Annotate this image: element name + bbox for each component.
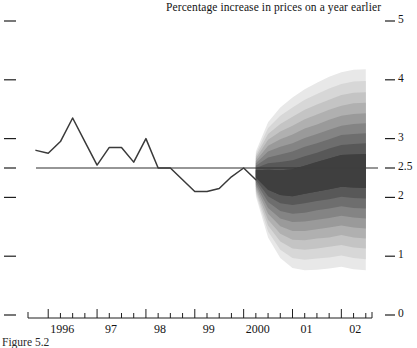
y-axis-label: 2.5 (398, 160, 412, 172)
y-axis-label: 1 (398, 248, 404, 260)
history-line (36, 118, 256, 192)
y-axis-label: 4 (398, 72, 404, 84)
x-axis-label: 98 (154, 322, 166, 337)
y-axis-label: 3 (398, 131, 404, 143)
y-axis-label: 5 (398, 13, 404, 25)
x-axis-label: 2000 (246, 322, 270, 337)
x-axis-label: 1996 (50, 322, 74, 337)
y-axis-label: 2 (398, 189, 404, 201)
x-axis-label: 02 (349, 322, 361, 337)
x-axis-label: 01 (301, 322, 313, 337)
y-axis-label: 0 (398, 307, 404, 319)
x-axis-label: 99 (203, 322, 215, 337)
x-axis (28, 309, 372, 318)
x-axis-label: 97 (105, 322, 117, 337)
figure-caption: Figure 5.2 (2, 336, 49, 348)
